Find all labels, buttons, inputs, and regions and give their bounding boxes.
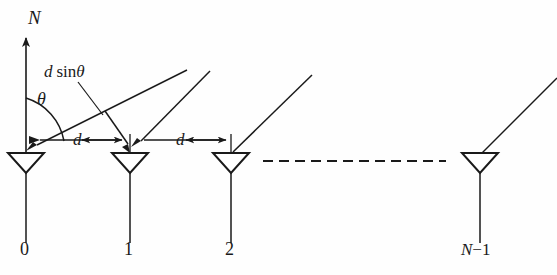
spacing-label-0-1: d <box>73 131 82 148</box>
incident-ray-element-2 <box>233 75 312 152</box>
ray-arrowhead-0 <box>26 142 37 151</box>
element-last-var: N <box>461 240 472 259</box>
element-index-label-1: 1 <box>124 240 133 258</box>
spacing-arrowhead-origin-0-1 <box>29 136 40 144</box>
path-difference-line <box>105 111 128 144</box>
incident-ray-element-1 <box>131 71 210 147</box>
antenna-element-2 <box>213 153 249 243</box>
antenna-array-figure: N θ dsinθ d d 0 1 2 N−1 <box>0 0 557 275</box>
path-difference-var: d <box>44 62 53 81</box>
element-last-suffix: −1 <box>472 240 490 259</box>
spacing-label-1-2: d <box>176 131 185 148</box>
element-index-label-0: 0 <box>20 240 29 258</box>
antenna-triangle-icon <box>112 153 148 173</box>
path-difference-arrowhead <box>122 144 130 153</box>
d-sin-theta-leader-line <box>78 82 103 115</box>
element-index-label-n-minus-1: N−1 <box>461 241 490 258</box>
antenna-element-n-minus-1 <box>462 153 498 243</box>
ray-line-n-minus-1 <box>482 78 557 153</box>
array-diagram-canvas <box>0 0 557 275</box>
normal-axis-label: N <box>28 8 41 27</box>
path-difference-fn: sin <box>57 62 77 81</box>
element-index-label-2: 2 <box>225 240 234 258</box>
antenna-element-1 <box>112 153 148 243</box>
antenna-element-0 <box>8 153 44 243</box>
path-difference-angle: θ <box>76 62 84 81</box>
spacing-dimension-1-2 <box>144 134 231 153</box>
theta-angle-label: θ <box>37 90 46 108</box>
path-difference-label: dsinθ <box>44 63 85 80</box>
ray-arrowhead-1 <box>131 138 141 147</box>
ray-line-2 <box>233 75 312 152</box>
incident-ray-element-n-minus-1 <box>482 78 557 153</box>
antenna-triangle-icon <box>213 153 249 173</box>
antenna-triangle-icon <box>462 153 498 173</box>
antenna-triangle-icon <box>8 153 44 173</box>
ray-line-0 <box>37 70 187 145</box>
incident-ray-element-0 <box>26 70 187 151</box>
path-difference-segment <box>105 111 130 153</box>
